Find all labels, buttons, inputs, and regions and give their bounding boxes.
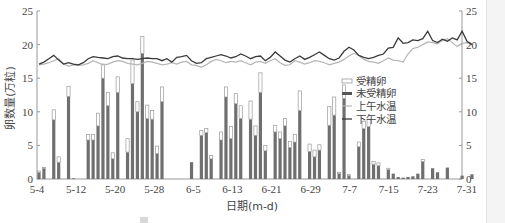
fertilized-bar <box>229 127 232 139</box>
unfertilized-bar <box>111 159 114 179</box>
caption-fragment <box>140 217 148 223</box>
unfertilized-bar <box>219 140 222 179</box>
unfertilized-bar <box>52 120 55 179</box>
unfertilized-bar <box>274 132 277 179</box>
fertilized-bar <box>37 171 40 172</box>
unfertilized-bar <box>293 142 296 179</box>
legend-item-am-temp: 上午水温 <box>342 100 397 112</box>
fertilized-bar <box>288 141 291 147</box>
unfertilized-bar <box>259 92 262 179</box>
unfertilized-bar <box>298 110 301 179</box>
fertilized-bar <box>278 132 281 139</box>
unfertilized-bar <box>264 151 267 179</box>
unfertilized-bar <box>278 139 281 179</box>
fertilized-bar <box>219 132 222 140</box>
fertilized-bar <box>42 168 45 169</box>
unfertilized-bar <box>106 106 109 179</box>
unfertilized-bar <box>416 174 419 179</box>
unfertilized-bar <box>136 112 139 179</box>
unfertilized-bar <box>421 162 424 179</box>
svg-text:未受精卵: 未受精卵 <box>356 87 396 99</box>
fertilized-bar <box>254 126 257 135</box>
unfertilized-bar <box>67 96 70 179</box>
unfertilized-bar <box>397 177 400 179</box>
unfertilized-bar <box>431 168 434 179</box>
unfertilized-bar <box>205 133 208 179</box>
svg-text:受精卵: 受精卵 <box>356 75 386 87</box>
unfertilized-bar <box>151 119 154 179</box>
fertilized-bar <box>342 85 345 98</box>
x-tick-label: 7-7 <box>342 183 357 195</box>
fertilized-bar <box>126 139 129 152</box>
unfertilized-bar <box>362 129 365 179</box>
unfertilized-bar <box>131 84 134 179</box>
svg-text:上午水温: 上午水温 <box>356 100 397 112</box>
legend-item-pm-temp: 下午水温 <box>342 113 397 125</box>
x-tick-label: 6-29 <box>300 183 321 195</box>
legend: 受精卵 未受精卵 上午水温 下午水温 <box>342 75 397 125</box>
fertilized-bar <box>87 135 90 140</box>
fertilized-bar <box>293 135 296 142</box>
unfertilized-bar <box>210 159 213 179</box>
fertilized-bar <box>283 119 286 126</box>
x-tick-label: 6-21 <box>261 183 281 195</box>
fertilized-bar <box>328 106 331 125</box>
fertilized-bar <box>116 77 119 92</box>
dark-bar-icon <box>342 92 352 95</box>
fertilized-bar <box>308 144 311 151</box>
unfertilized-bar <box>470 174 473 179</box>
unfertilized-bar <box>155 153 158 179</box>
unfertilized-bar <box>392 174 395 179</box>
fertilized-bar <box>239 106 242 119</box>
left-tick-label: 20 <box>22 39 34 51</box>
fertilized-bar <box>421 160 424 162</box>
unfertilized-bar <box>401 178 404 179</box>
fertilized-bar <box>347 174 350 175</box>
fertilized-bar <box>67 86 70 96</box>
legend-item-fertilized: 受精卵 <box>342 75 386 87</box>
fertilized-bar <box>387 168 390 169</box>
unfertilized-bar <box>436 172 439 179</box>
fertilized-bar <box>274 125 277 132</box>
x-tick-label: 5-12 <box>66 183 86 195</box>
left-axis-title: 卵数量(万粒) <box>3 66 17 130</box>
unfertilized-bar <box>87 140 90 179</box>
fertilized-bar <box>106 92 109 105</box>
unfertilized-bar <box>42 168 45 179</box>
unfertilized-bar <box>37 172 40 179</box>
right-tick-label: 25 <box>466 5 478 17</box>
fertilized-bar <box>264 145 267 150</box>
unfertilized-bar <box>313 157 316 179</box>
x-tick-label: 5-4 <box>30 183 45 195</box>
svg-text:下午水温: 下午水温 <box>356 113 397 125</box>
unfertilized-bar <box>249 119 252 179</box>
fertilized-bar <box>210 155 213 158</box>
x-tick-label: 5-20 <box>105 183 126 195</box>
unfertilized-bar <box>288 147 291 179</box>
unfertilized-bar <box>342 98 345 179</box>
unfertilized-bar <box>160 102 163 179</box>
x-tick-label: 7-31 <box>457 183 477 195</box>
fertilized-bar <box>136 102 139 112</box>
fertilized-bar <box>298 91 301 110</box>
x-tick-label: 6-13 <box>222 183 243 195</box>
left-tick-label: 5 <box>28 139 34 151</box>
right-tick-label: 5 <box>466 139 472 151</box>
right-tick-label: 10 <box>466 106 478 118</box>
fertilized-bar <box>318 145 321 150</box>
unfertilized-bar <box>328 125 331 179</box>
fertilized-bar <box>111 153 114 159</box>
unfertilized-bar <box>72 178 75 179</box>
fertilized-bar <box>155 146 158 153</box>
fertilized-bar <box>200 131 203 136</box>
fertilized-bar <box>234 94 237 104</box>
left-tick-label: 25 <box>22 5 34 17</box>
unfertilized-bar <box>283 126 286 179</box>
left-tick-label: 15 <box>22 72 34 84</box>
fertilized-bar <box>57 157 60 162</box>
unfertilized-bar <box>347 176 350 179</box>
unfertilized-bar <box>338 174 341 179</box>
fertilized-bar <box>205 129 208 133</box>
open-box-icon <box>342 79 352 83</box>
egg-count-water-temp-chart: 0510152025 0510152025 5-45-125-205-286-5… <box>0 0 505 223</box>
